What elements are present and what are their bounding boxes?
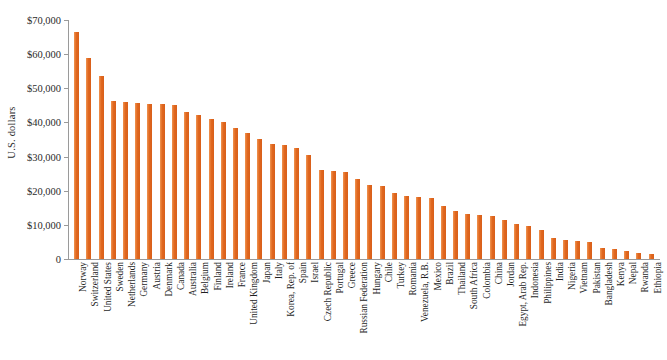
x-axis-category-label: Korea, Rep. of (287, 262, 296, 317)
x-axis-category-label: Ireland (226, 262, 235, 288)
x-axis-category-label: Italy (275, 262, 284, 279)
bar (429, 198, 434, 259)
x-axis-category-label: Romania (409, 262, 418, 296)
x-axis-category-label: Nigeria (568, 262, 577, 290)
x-axis-category-label: Austria (153, 262, 162, 289)
x-axis-category-label: Russian Federation (360, 262, 369, 334)
x-axis-category-label: Canada (177, 262, 186, 290)
x-axis-category-label: Colombia (483, 262, 492, 299)
x-axis-category-label: Germany (140, 262, 149, 297)
x-axis-category-label: Ethiopia (654, 262, 663, 294)
bar (221, 122, 226, 259)
bar (551, 238, 556, 259)
x-axis-category-label: Kenya (617, 262, 626, 286)
x-axis-category-label: China (495, 262, 504, 284)
x-axis-category-label: Philippines (544, 262, 553, 304)
bar (404, 196, 409, 259)
y-axis-tick-mark (64, 259, 69, 260)
plot-area: $70,000$60,000$50,000$40,000$30,000$20,0… (68, 20, 660, 260)
y-axis-tick-label: $50,000 (5, 83, 61, 94)
y-axis-tick-label: $70,000 (5, 15, 61, 26)
y-axis-tick-label: $30,000 (5, 151, 61, 162)
bar (392, 193, 397, 259)
x-axis-category-label: Belgium (201, 262, 210, 294)
bar (147, 104, 152, 259)
bar (612, 249, 617, 259)
bar (624, 251, 629, 259)
x-axis-category-label: India (556, 262, 565, 281)
bar (209, 119, 214, 259)
bar (160, 104, 165, 259)
x-axis-category-label: Venezuela, R.B. (421, 262, 430, 322)
y-axis-tick-label: $20,000 (5, 185, 61, 196)
x-axis-category-label: South Africa (470, 262, 479, 309)
bar (306, 155, 311, 259)
x-axis-category-label: Czech Republic (324, 262, 333, 321)
x-axis-category-label: Sweden (116, 262, 125, 291)
x-axis-category-label: France (238, 262, 247, 287)
bar (245, 133, 250, 259)
bar (490, 216, 495, 259)
bar (331, 171, 336, 259)
x-axis-category-label: Jordan (507, 262, 516, 287)
bar (319, 170, 324, 259)
x-axis-category-label: Greece (348, 262, 357, 288)
bar (355, 179, 360, 259)
bar (270, 144, 275, 259)
x-axis-category-label: United Kingdom (250, 262, 259, 325)
bar (526, 226, 531, 259)
bar (441, 206, 446, 259)
y-axis-tick-label: 0 (5, 254, 61, 265)
bar (99, 76, 104, 259)
y-axis-tick-label: $10,000 (5, 219, 61, 230)
x-axis-category-label: Thailand (458, 262, 467, 295)
x-axis-category-label: Brazil (446, 262, 455, 285)
x-axis-category-label: Vietnam (580, 262, 589, 293)
bar (257, 139, 262, 259)
bar (502, 220, 507, 259)
bar (282, 145, 287, 259)
x-axis-category-label: Bangladesh (605, 262, 614, 305)
x-axis-category-label: Turkey (397, 262, 406, 289)
bar (367, 185, 372, 259)
x-axis-category-label: Indonesia (531, 262, 540, 298)
bar (172, 105, 177, 259)
x-axis-category-label: Switzerland (91, 262, 100, 306)
y-axis-tick-label: $40,000 (5, 117, 61, 128)
bar (600, 248, 605, 259)
bar (416, 197, 421, 259)
x-axis-category-label: Rwanda (641, 262, 650, 292)
x-axis-category-label: Finland (214, 262, 223, 290)
x-axis-category-label: Norway (79, 262, 88, 292)
bar (111, 101, 116, 259)
bar (196, 115, 201, 259)
x-axis-category-label: Hungary (373, 262, 382, 295)
x-axis-category-label: Nepal (629, 262, 638, 284)
x-axis-category-label: United States (104, 262, 113, 312)
bar (539, 230, 544, 259)
bar (294, 148, 299, 259)
bar-chart: U.S. dollars $70,000$60,000$50,000$40,00… (0, 0, 667, 360)
bar (74, 32, 79, 259)
x-axis-category-label: Mexico (434, 262, 443, 290)
bar (563, 240, 568, 259)
bar (477, 215, 482, 259)
y-axis-tick-label: $60,000 (5, 49, 61, 60)
bar (135, 103, 140, 259)
x-axis-category-label: Pakistan (593, 262, 602, 294)
x-axis-category-label: Australia (189, 262, 198, 296)
bar (453, 211, 458, 259)
bar (587, 242, 592, 259)
bar (233, 128, 238, 259)
x-axis-category-label: Japan (263, 262, 272, 283)
bars-layer (69, 20, 660, 259)
x-axis-category-labels: NorwaySwitzerlandUnited StatesSwedenNeth… (68, 262, 659, 360)
x-axis-category-label: Israel (311, 262, 320, 283)
x-axis-category-label: Denmark (165, 262, 174, 297)
x-axis-category-label: Chile (385, 262, 394, 282)
bar (123, 102, 128, 259)
bar (636, 253, 641, 259)
x-axis-category-label: Netherlands (128, 262, 137, 307)
x-axis-category-label: Spain (299, 262, 308, 283)
bar (380, 186, 385, 259)
